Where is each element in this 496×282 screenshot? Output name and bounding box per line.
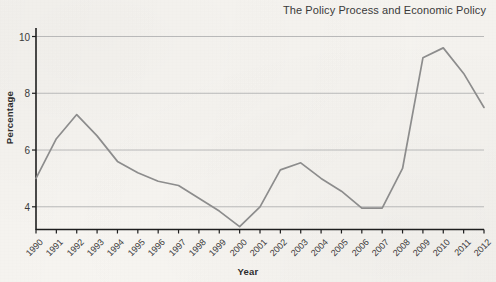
- gridlines-group: [32, 37, 484, 207]
- y-axis-title: Percentage: [4, 88, 15, 148]
- x-axis-title: Year: [0, 266, 496, 277]
- chart-figure: The Policy Process and Economic Policy 4…: [0, 0, 496, 282]
- axes-group: [36, 28, 484, 230]
- y-tick-label: 4: [8, 201, 30, 212]
- y-tick-label: 10: [8, 31, 30, 42]
- data-series-line: [36, 48, 484, 227]
